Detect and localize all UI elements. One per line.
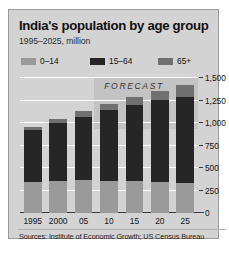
y-axis-tick xyxy=(199,167,203,168)
bar-segment xyxy=(176,85,194,97)
y-axis-tick xyxy=(199,212,203,213)
bar-segment xyxy=(151,182,169,213)
chart-legend: 0–14 15–64 65+ xyxy=(20,55,210,67)
bar-segment xyxy=(24,130,42,182)
bar-segment xyxy=(75,117,93,180)
bar-segment xyxy=(126,105,144,182)
bar-segment xyxy=(151,91,169,100)
bar-segment xyxy=(176,183,194,213)
legend-item-65-plus: 65+ xyxy=(158,55,191,67)
forecast-label: FORECAST xyxy=(104,81,164,91)
y-axis: 02505007501,0001,2501,500 xyxy=(199,78,229,213)
y-axis-tick xyxy=(199,122,203,123)
x-axis: 199520000510152025 xyxy=(20,216,200,228)
bar-10 xyxy=(100,104,118,213)
bar-segment xyxy=(75,180,93,213)
chart-subtitle: 1995–2025, million xyxy=(19,36,90,46)
y-axis-label: 250 xyxy=(205,186,219,196)
y-axis-label: 500 xyxy=(205,163,219,173)
bar-segment xyxy=(49,181,67,213)
legend-label-65-plus: 65+ xyxy=(177,56,191,66)
legend-swatch-15-64 xyxy=(90,58,105,65)
bar-segment xyxy=(100,181,118,213)
y-axis-label: 1,500 xyxy=(205,73,226,83)
bar-segment xyxy=(100,110,118,180)
legend-item-0-14: 0–14 xyxy=(21,55,59,67)
y-axis-tick xyxy=(199,100,203,101)
x-axis-label: 1995 xyxy=(20,216,45,226)
y-axis-label: 1,000 xyxy=(205,118,226,128)
legend-item-15-64: 15–64 xyxy=(90,55,132,67)
bar-segment xyxy=(24,182,42,213)
gridline xyxy=(20,77,198,78)
bar-05 xyxy=(75,111,93,213)
bar-segment xyxy=(126,181,144,213)
bar-20 xyxy=(151,91,169,213)
x-axis-label: 10 xyxy=(96,216,121,226)
x-axis-label: 25 xyxy=(173,216,198,226)
bar-15 xyxy=(126,97,144,213)
bar-segment xyxy=(49,123,67,181)
bar-1995 xyxy=(24,127,42,213)
bar-segment xyxy=(176,97,194,183)
x-axis-label: 05 xyxy=(71,216,96,226)
chart-panel: India's population by age group 1995–202… xyxy=(8,9,219,239)
legend-swatch-0-14 xyxy=(21,58,36,65)
y-axis-label: 750 xyxy=(205,141,219,151)
plot-area: FORECAST xyxy=(20,78,198,213)
x-axis-label: 15 xyxy=(122,216,147,226)
y-axis-tick xyxy=(199,77,203,78)
gridline xyxy=(20,100,198,101)
bar-25 xyxy=(176,85,194,213)
bar-segment xyxy=(126,97,144,105)
y-axis-label: 1,250 xyxy=(205,96,226,106)
footer-divider xyxy=(18,229,226,230)
chart-title: India's population by age group xyxy=(19,19,214,33)
x-axis-label: 20 xyxy=(147,216,172,226)
y-axis-tick xyxy=(199,145,203,146)
y-axis-label: 0 xyxy=(205,208,210,218)
y-axis-tick xyxy=(199,190,203,191)
bar-2000 xyxy=(49,119,67,214)
legend-label-15-64: 15–64 xyxy=(109,56,132,66)
chart-source: Sources: Institute of Economic Growth; U… xyxy=(19,232,204,241)
legend-swatch-65-plus xyxy=(158,58,173,65)
legend-label-0-14: 0–14 xyxy=(40,56,59,66)
x-axis-label: 2000 xyxy=(45,216,70,226)
bar-segment xyxy=(151,100,169,182)
